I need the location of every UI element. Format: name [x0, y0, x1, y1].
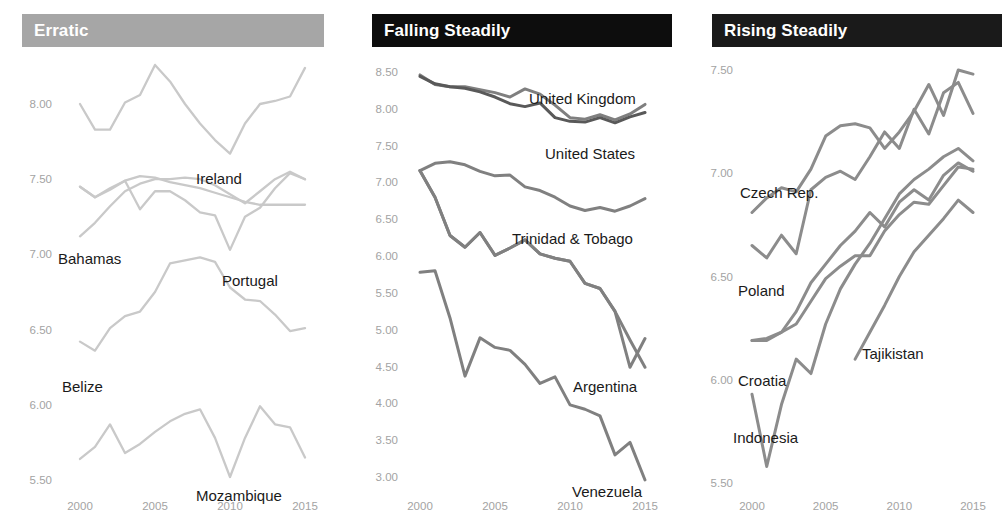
panel-falling-steadily: Falling Steadily	[350, 0, 680, 527]
y-axis-tick-label: 7.50	[12, 173, 52, 185]
x-axis-tick-label: 2015	[292, 500, 318, 512]
y-axis-tick-label: 6.50	[358, 213, 398, 225]
series-line	[420, 162, 645, 211]
x-axis-tick-label: 2005	[482, 500, 508, 512]
y-axis-tick-label: 7.50	[358, 140, 398, 152]
line-chart-svg-falling	[350, 0, 680, 527]
x-axis-tick-label: 2000	[739, 500, 765, 512]
series-inline-label: Tajikistan	[862, 345, 924, 362]
x-axis-tick-label: 2010	[887, 500, 913, 512]
x-axis-tick-label: 2000	[407, 500, 433, 512]
series-line	[420, 271, 645, 480]
series-inline-label: Trinidad & Tobago	[512, 230, 633, 247]
x-axis-tick-label: 2015	[632, 500, 658, 512]
y-axis-tick-label: 3.00	[358, 471, 398, 483]
series-line	[855, 200, 973, 359]
series-inline-label: Venezuela	[572, 483, 642, 500]
y-axis-tick-label: 5.50	[12, 474, 52, 486]
y-axis-tick-label: 7.00	[693, 167, 733, 179]
y-axis-tick-label: 8.50	[358, 66, 398, 78]
series-inline-label: Czech Rep.	[740, 184, 818, 201]
series-line	[80, 176, 305, 205]
y-axis-tick-label: 7.50	[693, 64, 733, 76]
series-inline-label: Croatia	[738, 372, 786, 389]
y-axis-tick-label: 4.00	[358, 397, 398, 409]
y-axis-tick-label: 5.50	[693, 477, 733, 489]
y-axis-tick-label: 7.00	[12, 248, 52, 260]
series-line	[80, 65, 305, 154]
x-axis-tick-label: 2005	[142, 500, 168, 512]
series-line	[80, 173, 305, 250]
y-axis-tick-label: 4.50	[358, 361, 398, 373]
y-axis-tick-label: 7.00	[358, 176, 398, 188]
plot-area-rising	[690, 0, 999, 527]
y-axis-tick-label: 6.00	[358, 250, 398, 262]
plot-area-falling	[350, 0, 680, 527]
line-chart-svg-rising	[690, 0, 999, 527]
y-axis-tick-label: 3.50	[358, 434, 398, 446]
series-inline-label: Indonesia	[733, 429, 798, 446]
series-inline-label: Portugal	[222, 272, 278, 289]
x-axis-tick-label: 2010	[557, 500, 583, 512]
series-inline-label: Poland	[738, 282, 785, 299]
series-line	[80, 406, 305, 477]
y-axis-tick-label: 6.00	[12, 399, 52, 411]
x-axis-tick-label: 2005	[813, 500, 839, 512]
series-inline-label: United States	[545, 145, 635, 162]
x-axis-tick-label: 2015	[960, 500, 986, 512]
series-inline-label: Bahamas	[58, 250, 121, 267]
plot-area-erratic	[0, 0, 340, 527]
y-axis-tick-label: 6.50	[12, 324, 52, 336]
series-inline-label: Ireland	[196, 170, 242, 187]
line-chart-svg-erratic	[0, 0, 340, 527]
series-inline-label: United Kingdom	[529, 90, 636, 107]
series-inline-label: Mozambique	[196, 487, 282, 504]
y-axis-tick-label: 8.00	[12, 98, 52, 110]
x-axis-tick-label: 2000	[67, 500, 93, 512]
y-axis-tick-label: 6.50	[693, 271, 733, 283]
series-inline-label: Argentina	[573, 378, 637, 395]
series-inline-label: Belize	[62, 378, 103, 395]
y-axis-tick-label: 5.00	[358, 324, 398, 336]
panel-erratic: Erratic	[0, 0, 340, 527]
y-axis-tick-label: 8.00	[358, 103, 398, 115]
y-axis-tick-label: 5.50	[358, 287, 398, 299]
y-axis-tick-label: 6.00	[693, 374, 733, 386]
panel-rising-steadily: Rising Steadily	[690, 0, 999, 527]
